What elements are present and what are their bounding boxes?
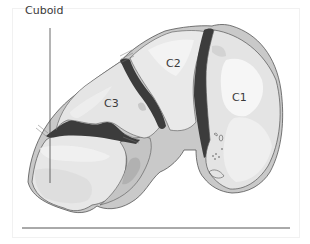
label-c2: C2	[166, 57, 181, 70]
foot-cross-section-diagram: C3 C2 C1	[0, 0, 310, 244]
label-c3: C3	[104, 97, 119, 110]
label-c1: C1	[232, 91, 247, 104]
